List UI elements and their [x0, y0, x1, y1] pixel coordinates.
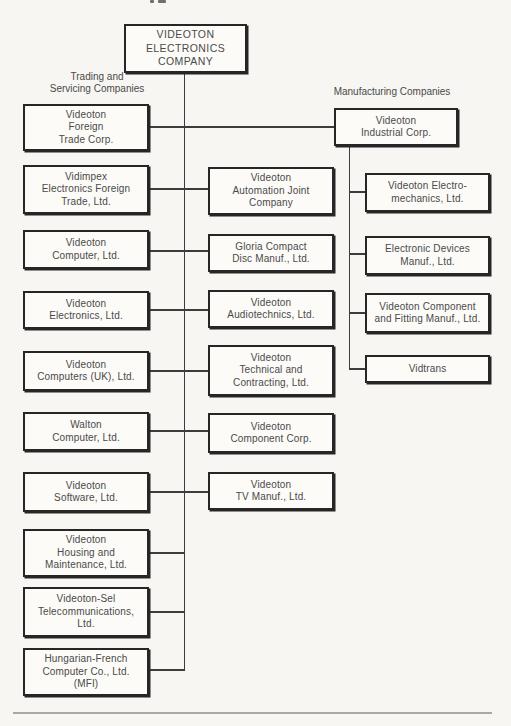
connector-row-vidimpex-automation [148, 188, 210, 190]
org-box-videoton-audiotechnics: Videoton Audiotechnics, Ltd. [208, 290, 334, 328]
org-box-hungarian-french-computer: Hungarian-French Computer Co., Ltd. (MFI… [23, 648, 149, 696]
connector-stub-electronic-devices [349, 253, 366, 255]
org-box-label: Videoton Software, Ltd. [51, 479, 121, 506]
org-box-label: Videoton Industrial Corp. [358, 114, 434, 141]
connector-row-housing [148, 552, 185, 554]
org-box-vidimpex-electronics-foreign-trade: Vidimpex Electronics Foreign Trade, Ltd. [23, 165, 149, 214]
connector-row-computersuk-technical [148, 370, 210, 372]
connector-row-videoton-sel [148, 611, 185, 613]
org-box-videoton-component-corp: Videoton Component Corp. [208, 413, 334, 453]
connector-row-hungarian-french [148, 669, 185, 671]
org-box-label: Electronic Devices Manuf., Ltd. [382, 242, 473, 269]
org-box-label: Vidtrans [406, 362, 450, 377]
group-label-manufacturing: Manufacturing Companies [322, 86, 462, 98]
org-box-videoton-electronics: Videoton Electronics, Ltd. [23, 291, 149, 329]
org-box-vidtrans: Vidtrans [365, 355, 490, 383]
org-box-videoton-sel-telecommunications: Videoton-Sel Telecommunications, Ltd. [23, 587, 149, 637]
org-box-label: Videoton Audiotechnics, Ltd. [224, 296, 317, 323]
connector-stub-electromechanics [349, 191, 366, 193]
org-box-label: Videoton Component Corp. [227, 420, 314, 447]
connector-stub-component-fitting [349, 312, 366, 314]
org-box-label: Walton Computer, Ltd. [49, 418, 123, 445]
connector-row-electronics-audiotechnics [148, 309, 210, 311]
org-box-label: Videoton Electro- mechanics, Ltd. [385, 179, 470, 206]
org-box-videoton-software: Videoton Software, Ltd. [23, 472, 149, 512]
org-box-videoton-computers-uk: Videoton Computers (UK), Ltd. [23, 351, 149, 391]
org-box-label: Videoton-Sel Telecommunications, Ltd. [35, 592, 137, 632]
org-box-videoton-tv-manuf: Videoton TV Manuf., Ltd. [208, 472, 334, 510]
org-box-gloria-compact-disc: Gloria Compact Disc Manuf., Ltd. [208, 234, 334, 272]
org-box-label: Videoton Foreign Trade Corp. [56, 108, 117, 148]
org-box-label: Videoton Computer, Ltd. [49, 236, 123, 263]
org-box-walton-computer: Walton Computer, Ltd. [23, 412, 149, 451]
scan-artifact [150, 0, 154, 3]
org-box-videoton-housing-maintenance: Videoton Housing and Maintenance, Ltd. [23, 529, 149, 577]
org-box-videoton-component-fitting: Videoton Component and Fitting Manuf., L… [365, 293, 490, 333]
org-box-label: Videoton Automation Joint Company [230, 171, 313, 211]
page-bottom-rule [13, 712, 492, 714]
org-box-label: Videoton Component and Fitting Manuf., L… [372, 300, 484, 327]
org-box-videoton-technical-contracting: Videoton Technical and Contracting, Ltd. [208, 345, 334, 396]
org-box-videoton-automation-joint: Videoton Automation Joint Company [208, 167, 334, 215]
group-label-trading-servicing: Trading and Servicing Companies [32, 71, 162, 95]
org-box-label: Gloria Compact Disc Manuf., Ltd. [229, 240, 313, 267]
org-box-label: Videoton Housing and Maintenance, Ltd. [42, 533, 130, 573]
org-box-videoton-industrial-corp: Videoton Industrial Corp. [334, 108, 458, 146]
org-box-label: Videoton TV Manuf., Ltd. [233, 478, 310, 505]
org-box-label: Videoton Computers (UK), Ltd. [34, 358, 137, 385]
org-box-videoton-electronics-company: VIDEOTON ELECTRONICS COMPANY [124, 24, 247, 73]
org-box-videoton-electromechanics: Videoton Electro- mechanics, Ltd. [365, 173, 490, 212]
scan-artifact [158, 0, 166, 3]
org-box-label: VIDEOTON ELECTRONICS COMPANY [143, 27, 228, 70]
org-box-videoton-computer: Videoton Computer, Ltd. [23, 230, 149, 269]
org-box-electronic-devices-manuf: Electronic Devices Manuf., Ltd. [365, 236, 490, 275]
org-box-label: Vidimpex Electronics Foreign Trade, Ltd. [39, 170, 133, 210]
org-box-label: Hungarian-French Computer Co., Ltd. (MFI… [39, 652, 132, 692]
org-box-label: Videoton Electronics, Ltd. [46, 297, 126, 324]
connector-row-walton-componentcorp [148, 430, 210, 432]
connector-row-software-tvmanuf [148, 491, 210, 493]
connector-manufacturing-trunk [349, 146, 351, 370]
connector-row-computer-gloria [148, 250, 210, 252]
org-box-label: Videoton Technical and Contracting, Ltd. [230, 351, 312, 391]
connector-stub-vidtrans [349, 368, 366, 370]
org-box-videoton-foreign-trade-corp: Videoton Foreign Trade Corp. [23, 104, 149, 151]
org-chart-page: Trading and Servicing Companies Manufact… [0, 0, 511, 726]
connector-row-parents [148, 126, 335, 128]
